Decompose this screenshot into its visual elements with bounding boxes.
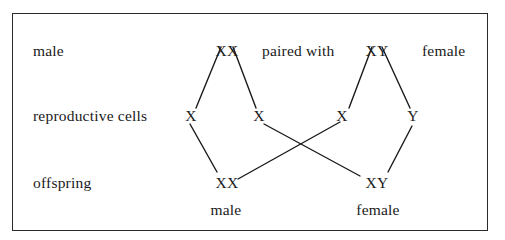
parent-genotype-right: XY (366, 43, 389, 59)
edge-gamete-2-to-offspring-xy (264, 124, 360, 176)
gamete-2: X (253, 108, 264, 124)
gamete-3: X (336, 108, 347, 124)
gamete-4: Y (407, 108, 418, 124)
row-label-gametes: reproductive cells (33, 108, 147, 124)
parent-sex-right: female (422, 43, 465, 59)
parent-genotype-left: XX (216, 43, 239, 59)
offspring-sex-1: male (211, 202, 242, 218)
row-label-parents: male (33, 43, 64, 59)
offspring-genotype-1: XX (216, 175, 239, 191)
edge-gamete-4-to-offspring-xy (388, 126, 412, 172)
gamete-1: X (185, 108, 196, 124)
offspring-genotype-2: XY (366, 175, 389, 191)
edge-gamete-1-to-offspring-xx (190, 124, 217, 172)
offspring-sex-2: female (356, 202, 399, 218)
edge-gamete-3-to-offspring-xx (238, 122, 340, 179)
row-label-offspring: offspring (33, 175, 91, 191)
paired-with-label: paired with (262, 43, 334, 59)
